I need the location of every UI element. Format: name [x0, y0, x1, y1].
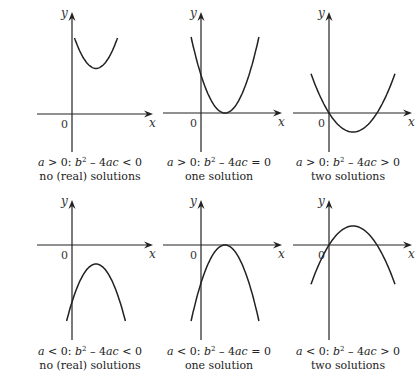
condition-label: a > 0: b2 – 4ac < 0	[38, 156, 142, 169]
graph-panel-a-neg-disc-neg: yx0a < 0: b2 – 4ac < 0no (real) solution…	[37, 194, 156, 372]
origin-label: 0	[190, 117, 197, 130]
solutions-caption: one solution	[185, 359, 253, 372]
graph-panel-a-pos-disc-neg: yx0a > 0: b2 – 4ac < 0no (real) solution…	[37, 6, 156, 183]
parabola-curve	[311, 226, 395, 284]
condition-label: a < 0: b2 – 4ac = 0	[167, 345, 271, 358]
x-axis-label: x	[408, 115, 415, 129]
x-axis-label: x	[408, 247, 415, 261]
solutions-caption: no (real) solutions	[39, 359, 141, 372]
solutions-caption: one solution	[185, 170, 253, 183]
graph-panel-a-neg-disc-pos: yx0a < 0: b2 – 4ac > 0two solutions	[293, 194, 415, 372]
solutions-caption: no (real) solutions	[39, 170, 141, 183]
x-axis-label: x	[278, 247, 285, 261]
graph-panel-a-pos-disc-pos: yx0a > 0: b2 – 4ac > 0two solutions	[293, 6, 415, 183]
x-axis-label: x	[149, 247, 156, 261]
condition-label: a < 0: b2 – 4ac < 0	[38, 345, 142, 358]
discriminant-figure: yx0a > 0: b2 – 4ac < 0no (real) solution…	[0, 0, 418, 381]
graph-panel-a-neg-disc-zero: yx0a < 0: b2 – 4ac = 0one solution	[163, 194, 285, 372]
solutions-caption: two solutions	[311, 359, 385, 372]
condition-label: a > 0: b2 – 4ac > 0	[296, 156, 400, 169]
y-axis-label: y	[317, 194, 325, 208]
parabola-curve	[67, 264, 126, 321]
y-axis-label: y	[189, 6, 197, 20]
parabola-curve	[75, 38, 118, 68]
origin-label: 0	[318, 117, 325, 130]
y-axis-label: y	[189, 194, 197, 208]
solutions-caption: two solutions	[311, 170, 385, 183]
origin-label: 0	[190, 249, 197, 262]
x-axis-label: x	[149, 116, 156, 130]
y-axis-label: y	[317, 6, 325, 20]
condition-label: a > 0: b2 – 4ac = 0	[167, 156, 271, 169]
x-axis-label: x	[278, 115, 285, 129]
origin-label: 0	[61, 249, 68, 262]
graph-panel-a-pos-disc-zero: yx0a > 0: b2 – 4ac = 0one solution	[163, 6, 285, 183]
origin-label: 0	[61, 118, 68, 131]
condition-label: a < 0: b2 – 4ac > 0	[296, 345, 400, 358]
y-axis-label: y	[60, 194, 68, 208]
y-axis-label: y	[60, 6, 68, 20]
